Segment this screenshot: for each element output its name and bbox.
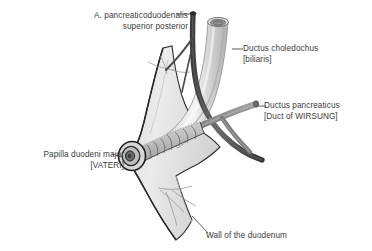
- label-choledochus-line1: Ductus choledochus: [243, 44, 318, 55]
- label-ductus-choledochus: Ductus choledochus [biliaris]: [243, 44, 318, 65]
- label-artery-line2: superior posterior: [62, 22, 188, 33]
- anatomy-illustration: [0, 0, 372, 251]
- label-wall-line1: Wall of the duodenum: [206, 231, 287, 242]
- label-ductus-pancreaticus: Ductus pancreaticus [Duct of WIRSUNG]: [264, 101, 340, 122]
- label-choledochus-line2: [biliaris]: [243, 55, 318, 66]
- label-pancreaticus-line1: Ductus pancreaticus: [264, 101, 340, 112]
- anatomy-figure: A. pancreaticoduodenalis superior poster…: [0, 0, 372, 251]
- label-wall-of-the-duodenum: Wall of the duodenum: [206, 231, 287, 242]
- label-a-pancreaticoduodenalis-superior-posterior: A. pancreaticoduodenalis superior poster…: [62, 11, 188, 32]
- label-papilla-line1: Papilla duodeni major: [8, 150, 124, 161]
- label-pancreaticus-line2: [Duct of WIRSUNG]: [264, 112, 340, 123]
- label-papilla-duodeni-major: Papilla duodeni major [VATERI]: [8, 150, 124, 171]
- label-papilla-line2: [VATERI]: [8, 161, 124, 172]
- label-artery-line1: A. pancreaticoduodenalis: [62, 11, 188, 22]
